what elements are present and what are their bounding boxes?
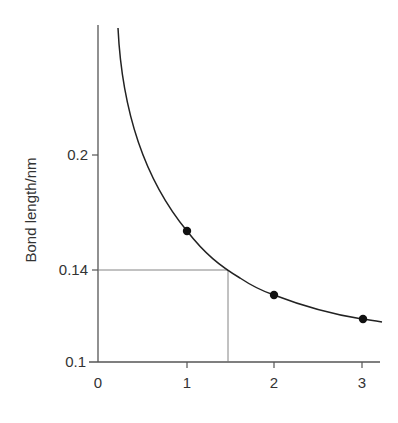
data-point [359, 315, 367, 323]
data-point [270, 291, 278, 299]
x-tick-label: 2 [270, 374, 278, 391]
y-tick-label: 0.2 [67, 146, 88, 163]
chart: 0.2 0.14 0.1 0 1 2 3 Bond length/nm [0, 0, 398, 423]
data-point [183, 227, 191, 235]
y-tick-label: 0.1 [65, 353, 86, 370]
fitted-curve [118, 28, 382, 322]
y-axis-label: Bond length/nm [22, 157, 39, 262]
x-tick-label: 3 [358, 374, 366, 391]
x-tick-label: 0 [94, 374, 102, 391]
y-tick-label: 0.14 [59, 261, 88, 278]
x-tick-label: 1 [183, 374, 191, 391]
